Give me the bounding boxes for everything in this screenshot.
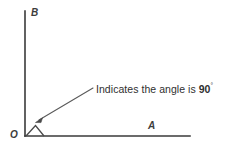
annotation-angle-value: 90	[199, 83, 211, 95]
annotation-leader-line	[39, 88, 93, 120]
diagram-canvas	[0, 0, 231, 153]
right-angle-marker-icon	[26, 126, 44, 137]
angle-annotation-text: Indicates the angle is 90°	[96, 83, 213, 95]
degree-symbol-icon: °	[211, 82, 214, 89]
horizontal-axis-label: A	[148, 121, 155, 131]
origin-label: O	[10, 130, 18, 140]
geometry-diagram: B A O Indicates the angle is 90°	[0, 0, 231, 153]
annotation-prefix: Indicates the angle is	[96, 83, 199, 95]
vertical-axis-label: B	[31, 8, 38, 18]
arrowhead-icon	[36, 118, 43, 123]
